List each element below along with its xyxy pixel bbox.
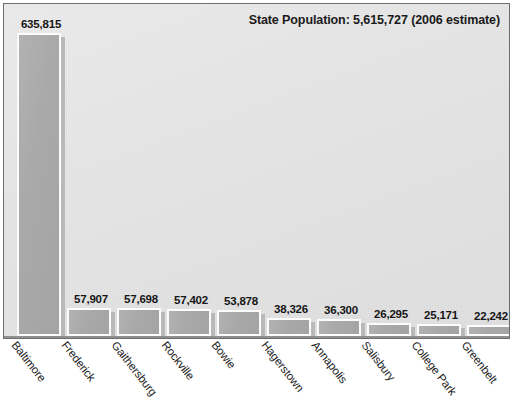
- bar[interactable]: [67, 308, 111, 336]
- bar[interactable]: [467, 325, 510, 336]
- bar-chart-figure: State Population: 5,615,727 (2006 estima…: [0, 0, 518, 420]
- bar-slot: 38,326: [266, 4, 316, 336]
- bar[interactable]: [417, 324, 461, 336]
- bar-value-label: 635,815: [12, 18, 70, 30]
- bar[interactable]: [117, 308, 161, 336]
- plot-area: State Population: 5,615,727 (2006 estima…: [3, 3, 510, 339]
- bar-slot: 26,295: [366, 4, 416, 336]
- bar-value-label: 22,242: [462, 310, 510, 322]
- x-axis-label-baltimore: Baltimore: [10, 339, 49, 384]
- bar-slot: 22,242: [466, 4, 510, 336]
- bar-slot: 57,907: [66, 4, 116, 336]
- bar-slot: 25,171: [416, 4, 466, 336]
- bar-slot: 57,402: [166, 4, 216, 336]
- x-axis-label-frederick: Frederick: [60, 339, 98, 383]
- bars-container: 635,81557,90757,69857,40253,87838,32636,…: [4, 4, 509, 336]
- x-axis-label-greenbelt: Greenbelt: [460, 339, 500, 385]
- bar-slot: 57,698: [116, 4, 166, 336]
- x-axis-line: [4, 336, 509, 338]
- bar-slot: 36,300: [316, 4, 366, 336]
- x-axis-label-annapolis: Annapolis: [310, 339, 350, 385]
- bar[interactable]: [317, 319, 361, 336]
- bar[interactable]: [267, 318, 311, 336]
- bar-slot: 53,878: [216, 4, 266, 336]
- x-axis-category-labels: BaltimoreFrederickGaithersburgRockvilleB…: [3, 339, 510, 417]
- x-axis-label-hagerstown: Hagerstown: [260, 339, 307, 394]
- x-axis-label-rockville: Rockville: [160, 339, 197, 382]
- x-axis-label-gaithersburg: Gaithersburg: [110, 339, 160, 398]
- x-axis-label-bowie: Bowie: [210, 339, 238, 371]
- bar-slot: 635,815: [16, 4, 66, 336]
- x-axis-label-salisbury: Salisbury: [360, 339, 398, 383]
- bar[interactable]: [217, 310, 261, 336]
- bar[interactable]: [167, 309, 211, 336]
- bar[interactable]: [17, 33, 61, 336]
- bar[interactable]: [367, 323, 411, 336]
- x-axis-label-college-park: College Park: [410, 339, 459, 397]
